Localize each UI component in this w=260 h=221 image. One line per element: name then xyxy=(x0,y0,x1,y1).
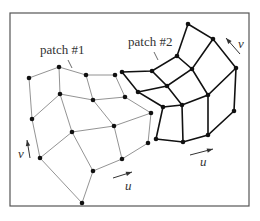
patch-2-u-isoline xyxy=(156,111,234,142)
control-point xyxy=(120,157,125,162)
v-direction-arrow-icon-head xyxy=(26,140,30,146)
v-axis-label: v xyxy=(238,36,244,51)
u-direction-arrow-icon-head xyxy=(126,172,132,176)
control-point xyxy=(84,73,89,78)
control-point xyxy=(91,169,96,174)
control-point xyxy=(232,109,237,114)
control-point xyxy=(186,22,191,27)
control-point xyxy=(112,124,117,129)
control-point xyxy=(30,117,35,122)
label-leader-line xyxy=(68,60,72,68)
patch-1-v-isoline xyxy=(86,75,122,159)
patch-1-u-isoline xyxy=(29,67,115,78)
u-direction-arrow-icon-head xyxy=(207,148,213,152)
control-point xyxy=(161,105,166,110)
label-leader-line xyxy=(154,52,158,60)
control-point xyxy=(154,137,159,142)
control-point xyxy=(211,37,216,42)
control-point xyxy=(113,73,118,78)
patch-label: patch #2 xyxy=(128,34,172,49)
control-point xyxy=(190,67,195,72)
control-point xyxy=(38,156,43,161)
control-point xyxy=(180,103,185,108)
control-point xyxy=(123,95,128,100)
control-point xyxy=(120,70,125,75)
patch-1: patch #1uv xyxy=(18,42,153,205)
u-axis-label: u xyxy=(125,178,132,193)
control-point xyxy=(136,90,141,95)
control-point xyxy=(206,133,211,138)
control-point xyxy=(146,141,151,146)
control-point xyxy=(206,93,211,98)
patch-label: patch #1 xyxy=(40,42,84,57)
control-point xyxy=(27,76,32,81)
control-point xyxy=(234,66,239,71)
control-point xyxy=(80,201,85,206)
control-point xyxy=(149,111,154,116)
control-point xyxy=(175,54,180,59)
control-point xyxy=(150,69,155,74)
control-point xyxy=(91,98,96,103)
control-point xyxy=(57,65,62,70)
patch-2-v-isoline xyxy=(122,72,163,139)
patch-1-u-isoline xyxy=(32,94,125,119)
patch-diagram: patch #1uvpatch #2uv xyxy=(0,0,260,221)
control-point xyxy=(70,130,75,135)
patch-2: patch #2uv xyxy=(120,22,244,169)
control-point xyxy=(58,92,63,97)
u-axis-label: u xyxy=(200,154,207,169)
patch-2-u-isoline xyxy=(163,68,236,107)
control-point xyxy=(181,140,186,145)
diagram-layer: patch #1uvpatch #2uv xyxy=(18,22,244,206)
control-point xyxy=(165,84,170,89)
v-axis-label: v xyxy=(18,146,24,161)
